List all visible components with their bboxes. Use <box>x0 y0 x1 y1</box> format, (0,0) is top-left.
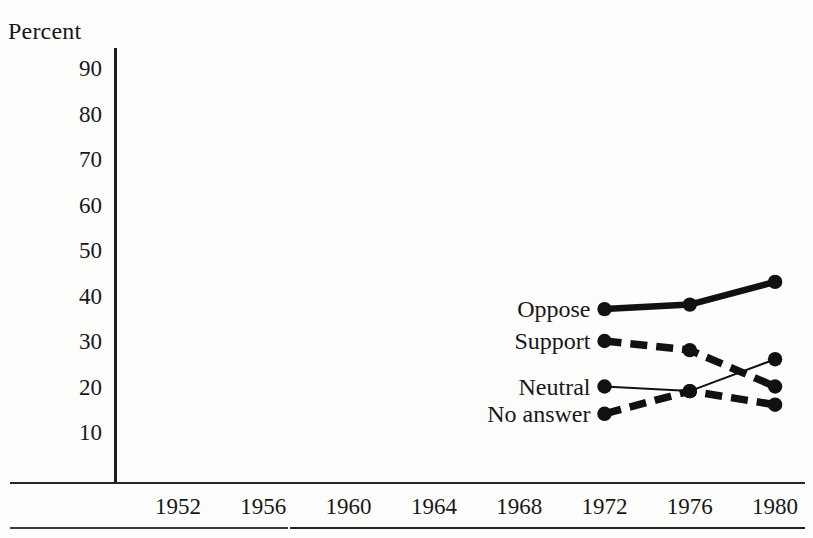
data-point-no-answer-1980 <box>768 398 782 412</box>
data-point-support-1980 <box>768 379 782 393</box>
series-label-support: Support <box>0 328 591 354</box>
series-label-neutral: Neutral <box>0 374 591 400</box>
series-label-no-answer: No answer <box>0 401 591 427</box>
data-point-oppose-1976 <box>683 297 697 311</box>
series-label-oppose: Oppose <box>0 296 591 322</box>
data-point-oppose-1980 <box>768 275 782 289</box>
data-point-support-1972 <box>597 334 611 348</box>
chart-figure: Percent 908070605040302010 1952195619601… <box>0 0 813 538</box>
plot-area <box>0 0 813 538</box>
data-point-no-answer-1976 <box>683 384 697 398</box>
data-point-no-answer-1972 <box>597 407 611 421</box>
data-point-support-1976 <box>683 343 697 357</box>
data-point-neutral-1972 <box>597 379 611 393</box>
data-point-oppose-1972 <box>597 302 611 316</box>
data-point-neutral-1980 <box>768 352 782 366</box>
